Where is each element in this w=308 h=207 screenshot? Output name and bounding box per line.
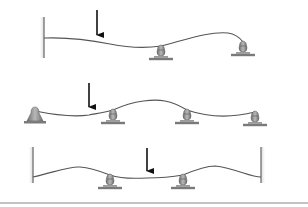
deflected-beam — [35, 100, 255, 116]
beam-2 — [24, 83, 267, 126]
pin-support-icon — [24, 107, 46, 124]
roller-support-icon — [231, 41, 255, 56]
fixed-wall-icon — [28, 147, 33, 183]
beam-diagram — [0, 0, 308, 207]
fixed-wall-icon — [39, 17, 44, 58]
beam-3 — [28, 147, 266, 189]
roller-support-icon — [243, 111, 267, 126]
deflected-beam — [44, 33, 243, 48]
roller-support-icon — [101, 109, 125, 124]
fixed-wall-icon — [261, 147, 266, 183]
beam-1 — [39, 10, 255, 60]
roller-support-icon — [175, 109, 199, 124]
roller-support-icon — [98, 174, 122, 189]
